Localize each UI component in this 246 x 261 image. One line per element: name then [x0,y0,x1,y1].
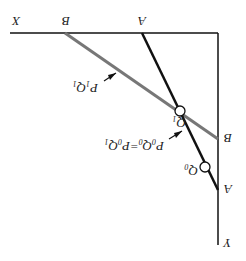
label-P0Q0-eq-P0Q1: P0Q0=P0Q1 [105,137,165,154]
label-B-x: B [62,14,70,29]
point-Q0 [200,162,210,172]
label-P1Q1: P1Q1 [73,79,99,96]
label-Q1: Q1 [173,114,186,131]
label-A-x: A [138,14,147,29]
arrowhead-p0q0 [174,131,182,138]
x-axis-label: X [11,14,21,29]
budget-line-diagram: X Y B A B A Q1 Q0 P1Q1 P0Q0=P0Q1 [0,0,246,261]
y-axis-label: Y [222,236,231,251]
label-A-y: A [224,182,233,197]
arrowhead-p1q1 [108,73,116,80]
label-Q0: Q0 [185,162,198,179]
label-B-y: B [224,131,232,146]
